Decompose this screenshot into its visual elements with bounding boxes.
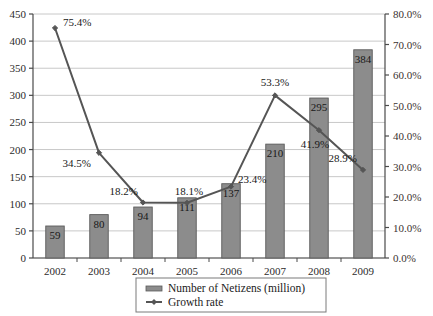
- category-label: 2005: [176, 265, 199, 277]
- growth-rate-label: 75.4%: [63, 16, 91, 28]
- combo-chart: 050100150200250300350400450 0.0%10.0%20.…: [0, 0, 433, 316]
- left-axis-tick-label: 50: [15, 225, 27, 237]
- legend-label-netizens: Number of Netizens (million): [168, 282, 305, 295]
- category-label: 2006: [220, 265, 243, 277]
- right-axis-tick-label: 70.0%: [393, 39, 421, 51]
- left-axis-tick-label: 150: [10, 171, 27, 183]
- growth-rate-label: 41.9%: [301, 138, 329, 150]
- category-label: 2007: [264, 265, 287, 277]
- chart-legend: Number of Netizens (million)Growth rate: [136, 278, 326, 312]
- growth-rate-label: 23.4%: [238, 173, 266, 185]
- chart-container: 050100150200250300350400450 0.0%10.0%20.…: [0, 0, 433, 316]
- bar: [310, 98, 328, 258]
- bar-value-label: 59: [50, 229, 62, 241]
- growth-rate-label: 28.9%: [329, 152, 357, 164]
- bar-value-label: 210: [267, 147, 284, 159]
- legend-label-growth-rate: Growth rate: [168, 296, 223, 308]
- right-axis-tick-label: 10.0%: [393, 222, 421, 234]
- left-axis-tick-label: 0: [21, 252, 27, 264]
- bar-value-label: 295: [311, 101, 328, 113]
- legend-swatch-bar: [146, 286, 162, 291]
- growth-rate-label: 18.2%: [110, 185, 138, 197]
- right-axis-tick-label: 40.0%: [393, 130, 421, 142]
- growth-rate-label: 53.3%: [261, 76, 289, 88]
- category-label: 2003: [88, 265, 111, 277]
- bar-value-label: 80: [94, 218, 106, 230]
- right-axis-tick-label: 50.0%: [393, 100, 421, 112]
- right-axis-tick-label: 20.0%: [393, 191, 421, 203]
- left-axis-tick-label: 450: [10, 8, 27, 20]
- category-label: 2009: [352, 265, 375, 277]
- right-axis-tick-label: 80.0%: [393, 8, 421, 20]
- left-axis-tick-label: 350: [10, 62, 27, 74]
- left-axis-tick-label: 250: [10, 116, 27, 128]
- growth-rate-label: 18.1%: [175, 185, 203, 197]
- bar-value-label: 384: [355, 53, 372, 65]
- left-axis-tick-label: 400: [10, 35, 27, 47]
- left-axis-tick-label: 200: [10, 144, 27, 156]
- left-axis-tick-label: 100: [10, 198, 27, 210]
- growth-rate-label: 34.5%: [63, 157, 91, 169]
- left-axis-tick-label: 300: [10, 89, 27, 101]
- category-label: 2004: [132, 265, 155, 277]
- bar-value-label: 94: [138, 210, 150, 222]
- bar: [266, 144, 284, 258]
- right-axis-tick-label: 0.0%: [393, 252, 416, 264]
- category-label: 2002: [44, 265, 66, 277]
- category-label: 2008: [308, 265, 331, 277]
- right-axis-tick-label: 60.0%: [393, 69, 421, 81]
- right-axis-tick-label: 30.0%: [393, 161, 421, 173]
